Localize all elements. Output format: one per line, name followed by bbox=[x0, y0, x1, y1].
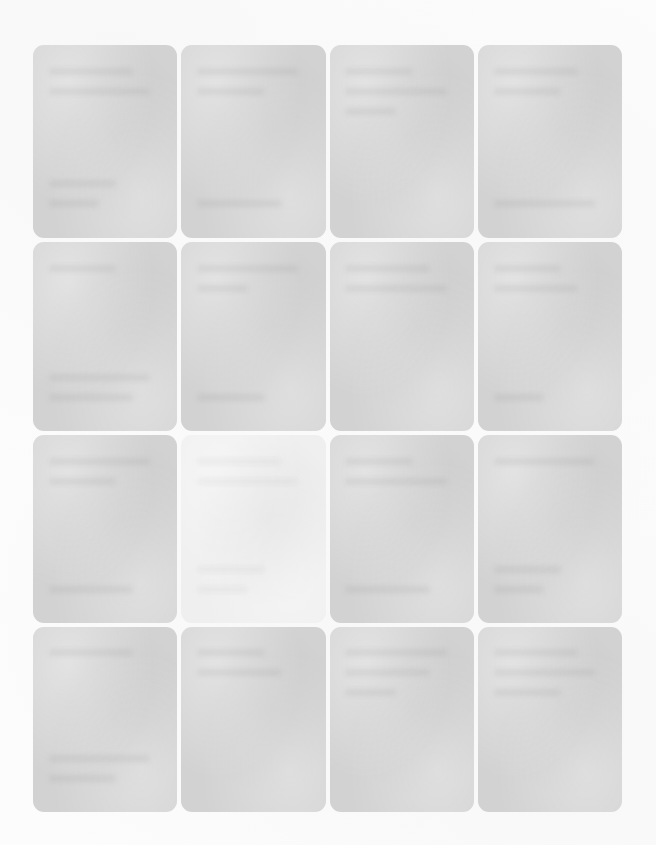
card-text-placeholder bbox=[197, 265, 310, 292]
card-text-placeholder bbox=[197, 649, 310, 676]
card-text-placeholder-lower bbox=[49, 586, 162, 593]
card-text-placeholder bbox=[49, 265, 162, 272]
card-text-placeholder bbox=[49, 68, 162, 95]
card-text-placeholder-lower bbox=[197, 200, 310, 207]
ghost-text-line bbox=[345, 265, 429, 272]
ghost-text-line bbox=[494, 669, 595, 676]
card-label bbox=[330, 627, 331, 628]
ghost-text-line bbox=[345, 285, 446, 292]
card-text-placeholder bbox=[345, 458, 458, 485]
card-tile[interactable] bbox=[478, 45, 622, 238]
ghost-text-line bbox=[197, 566, 265, 573]
card-text-placeholder-lower bbox=[197, 394, 310, 401]
ghost-text-line bbox=[345, 478, 446, 485]
card-text-placeholder bbox=[494, 458, 607, 465]
ghost-text-line bbox=[494, 200, 595, 207]
ghost-text-line bbox=[494, 458, 595, 465]
card-tile-highlighted[interactable] bbox=[181, 435, 325, 623]
card-label bbox=[33, 45, 34, 46]
ghost-text-line bbox=[197, 200, 281, 207]
card-text-placeholder bbox=[49, 458, 162, 485]
card-text-placeholder-lower bbox=[49, 180, 162, 207]
ghost-text-line bbox=[197, 68, 298, 75]
card-label bbox=[330, 242, 331, 243]
ghost-text-line bbox=[494, 649, 578, 656]
card-label bbox=[478, 435, 479, 436]
card-tile[interactable] bbox=[181, 242, 325, 431]
card-label bbox=[181, 45, 182, 46]
card-text-placeholder-lower bbox=[494, 566, 607, 593]
ghost-text-line bbox=[197, 394, 265, 401]
card-tile[interactable] bbox=[181, 45, 325, 238]
card-tile[interactable] bbox=[330, 627, 474, 812]
card-text-placeholder-lower bbox=[197, 566, 310, 593]
ghost-text-line bbox=[197, 88, 265, 95]
ghost-text-line bbox=[345, 586, 429, 593]
card-label bbox=[330, 45, 331, 46]
card-tile[interactable] bbox=[181, 627, 325, 812]
ghost-text-line bbox=[197, 285, 248, 292]
ghost-text-line bbox=[197, 458, 281, 465]
card-text-placeholder bbox=[345, 265, 458, 292]
card-grid bbox=[33, 45, 622, 800]
card-label bbox=[181, 627, 182, 628]
card-label bbox=[478, 242, 479, 243]
card-tile[interactable] bbox=[330, 435, 474, 623]
ghost-text-line bbox=[345, 108, 396, 115]
ghost-text-line bbox=[494, 285, 578, 292]
ghost-text-line bbox=[494, 689, 562, 696]
page-root bbox=[0, 0, 656, 845]
ghost-text-line bbox=[345, 649, 446, 656]
ghost-text-line bbox=[197, 586, 248, 593]
ghost-text-line bbox=[49, 586, 133, 593]
ghost-text-line bbox=[49, 458, 150, 465]
card-text-placeholder bbox=[494, 265, 607, 292]
card-tile[interactable] bbox=[33, 45, 177, 238]
card-label bbox=[181, 435, 182, 436]
ghost-text-line bbox=[49, 68, 133, 75]
card-label bbox=[478, 627, 479, 628]
card-label bbox=[33, 435, 34, 436]
card-label bbox=[181, 242, 182, 243]
card-text-placeholder bbox=[494, 68, 607, 95]
ghost-text-line bbox=[197, 649, 265, 656]
card-label bbox=[33, 242, 34, 243]
card-tile[interactable] bbox=[478, 627, 622, 812]
card-tile[interactable] bbox=[330, 242, 474, 431]
card-label bbox=[330, 435, 331, 436]
card-text-placeholder bbox=[345, 68, 458, 115]
ghost-text-line bbox=[49, 478, 117, 485]
card-text-placeholder bbox=[345, 649, 458, 696]
ghost-text-line bbox=[345, 669, 429, 676]
card-tile[interactable] bbox=[330, 45, 474, 238]
ghost-text-line bbox=[49, 200, 100, 207]
ghost-text-line bbox=[49, 374, 150, 381]
ghost-text-line bbox=[494, 265, 562, 272]
ghost-text-line bbox=[49, 88, 150, 95]
ghost-text-line bbox=[49, 755, 150, 762]
card-text-placeholder bbox=[197, 458, 310, 485]
ghost-text-line bbox=[49, 394, 133, 401]
ghost-text-line bbox=[494, 394, 545, 401]
ghost-text-line bbox=[345, 458, 413, 465]
ghost-text-line bbox=[197, 669, 281, 676]
ghost-text-line bbox=[197, 478, 298, 485]
card-tile[interactable] bbox=[478, 242, 622, 431]
ghost-text-line bbox=[494, 68, 578, 75]
card-tile[interactable] bbox=[33, 627, 177, 812]
card-label bbox=[478, 45, 479, 46]
ghost-text-line bbox=[49, 775, 117, 782]
card-label bbox=[33, 627, 34, 628]
card-tile[interactable] bbox=[33, 242, 177, 431]
card-text-placeholder-lower bbox=[494, 200, 607, 207]
ghost-text-line bbox=[494, 88, 562, 95]
card-text-placeholder bbox=[49, 649, 162, 656]
ghost-text-line bbox=[345, 88, 446, 95]
card-tile[interactable] bbox=[478, 435, 622, 623]
card-text-placeholder bbox=[197, 68, 310, 95]
card-text-placeholder-lower bbox=[49, 374, 162, 401]
card-tile[interactable] bbox=[33, 435, 177, 623]
ghost-text-line bbox=[345, 68, 413, 75]
card-text-placeholder bbox=[494, 649, 607, 696]
ghost-text-line bbox=[49, 265, 117, 272]
